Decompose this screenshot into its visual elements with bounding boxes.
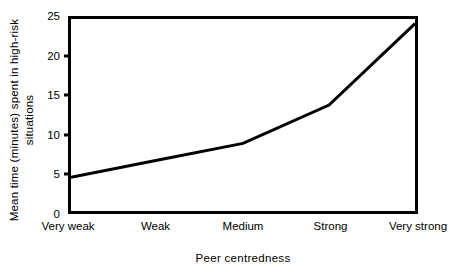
- y-tick-label: 25: [22, 10, 60, 22]
- data-line-series: [71, 19, 415, 211]
- plot-area: [68, 16, 418, 214]
- y-tick-label: 15: [22, 89, 60, 101]
- chart-figure: Mean time (minutes) spent in high-risk s…: [0, 0, 450, 280]
- y-tick-label: 20: [22, 50, 60, 62]
- x-tick-label: Weak: [141, 220, 170, 232]
- x-tick-label: Medium: [223, 220, 264, 232]
- x-tick-label: Very strong: [389, 220, 447, 232]
- x-tick-label: Strong: [314, 220, 348, 232]
- y-axis-ticks: 0510152025: [0, 0, 68, 280]
- series-polyline: [71, 24, 415, 178]
- x-axis-title: Peer centredness: [68, 252, 418, 264]
- y-tick-label: 0: [22, 208, 60, 220]
- y-tick-label: 10: [22, 129, 60, 141]
- x-tick-label: Very weak: [41, 220, 94, 232]
- y-tick-label: 5: [22, 168, 60, 180]
